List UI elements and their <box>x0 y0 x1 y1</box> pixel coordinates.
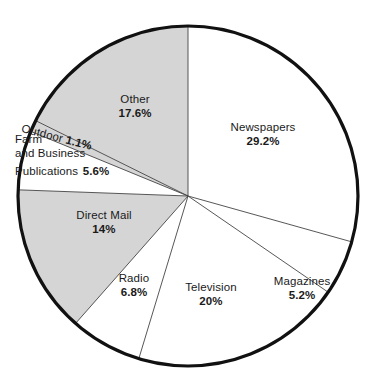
pie-chart: Newspapers 29.2% Other 17.6% Direct Mail… <box>0 0 371 377</box>
pie-chart-canvas <box>0 0 371 377</box>
